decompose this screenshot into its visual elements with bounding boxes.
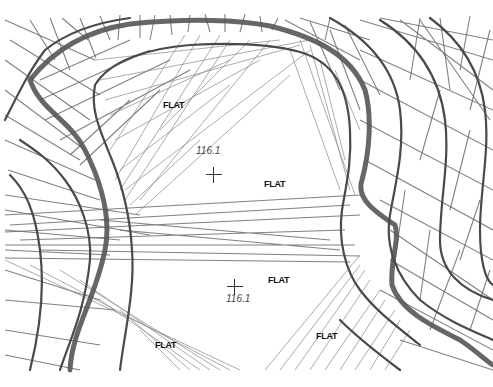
minor-contour-outer-left	[5, 18, 130, 370]
figure-caption	[0, 380, 493, 387]
tin-contour-figure: FLAT FLAT FLAT FLAT FLAT 116.1 116.1	[0, 0, 493, 387]
spot-elevation-cross-icon	[206, 167, 222, 183]
tin-drawing	[0, 0, 493, 387]
minor-contour-left-inner-bend	[20, 140, 90, 370]
minor-contour-right-lower	[340, 320, 400, 370]
minor-contour-outer-right-1	[330, 18, 493, 340]
flat-label: FLAT	[163, 100, 184, 110]
spot-elevation-label: 116.1	[226, 293, 250, 304]
flat-label: FLAT	[268, 275, 289, 285]
flat-label: FLAT	[316, 331, 337, 341]
contour-lines	[5, 18, 493, 370]
flat-label: FLAT	[264, 179, 285, 189]
spot-elevation-label: 116.1	[196, 145, 220, 156]
flat-label: FLAT	[155, 340, 176, 350]
